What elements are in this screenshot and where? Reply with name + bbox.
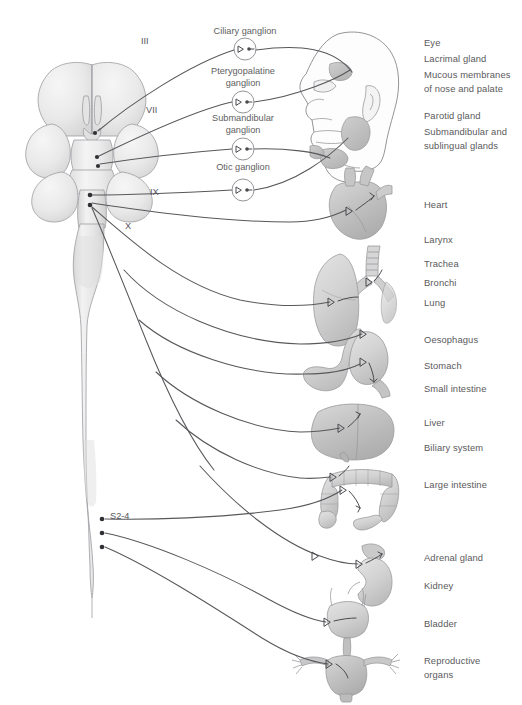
nerve-path-S2-4-colon	[105, 490, 342, 519]
label-submandibular-sublingual-line1: Submandibular and	[424, 126, 507, 137]
label-stomach: Stomach	[424, 360, 462, 371]
label-liver: Liver	[424, 417, 445, 428]
label-eye: Eye	[424, 37, 440, 48]
label-trachea: Trachea	[424, 258, 459, 269]
outflow-dot-III	[93, 131, 97, 135]
outflow-dot-S2	[100, 517, 105, 522]
sacral-outflow-dots	[100, 517, 105, 550]
outflow-dot-VII	[95, 155, 99, 159]
nerve-path-S2-4-reproductive	[105, 547, 328, 664]
nerve-numeral-VII: VII	[146, 105, 157, 115]
ciliary-ganglion-synapse	[238, 46, 243, 52]
label-mucous-membranes-line1: Mucous membranes	[424, 69, 511, 80]
ciliary-ganglion-label: Ciliary ganglion	[214, 26, 277, 36]
otic-ganglion-synapse	[236, 187, 241, 193]
label-adrenal-gland: Adrenal gland	[424, 552, 483, 563]
nerve-numeral-IX: IX	[150, 187, 159, 197]
label-bronchi: Bronchi	[424, 277, 457, 288]
head-profile-with-glands	[300, 32, 399, 182]
submandibular-ganglion[interactable]	[232, 138, 254, 160]
label-reproductive-organs-line2: organs	[424, 669, 453, 680]
liver	[311, 404, 394, 462]
sacral-outflow-label: S2-4	[110, 511, 129, 521]
nerve-path-X-trunk	[92, 208, 214, 470]
label-reproductive-organs-line1: Reproductive	[424, 655, 480, 666]
label-oesophagus: Oesophagus	[424, 334, 478, 345]
outflow-dot-X	[88, 203, 93, 208]
label-submandibular-sublingual-line2: sublingual glands	[424, 140, 498, 151]
nerve-numeral-III: III	[141, 36, 149, 46]
outflow-dot-S3	[100, 531, 105, 536]
diagram-canvas: Ciliary ganglion Pterygopalatine ganglio…	[0, 0, 522, 705]
outflow-dot-VII-b	[96, 164, 100, 168]
submandibular-ganglion-synapse	[236, 146, 241, 152]
label-biliary-system: Biliary system	[424, 442, 483, 453]
label-bladder: Bladder	[424, 618, 457, 629]
synapse-adrenal	[312, 552, 318, 560]
outflow-dot-IX	[88, 193, 93, 198]
label-parotid-gland: Parotid gland	[424, 110, 481, 121]
pterygopalatine-ganglion-label-line1: Pterygopalatine	[211, 66, 275, 76]
organ-label-column: Eye Lacrimal gland Mucous membranes of n…	[424, 37, 511, 680]
label-large-intestine: Large intestine	[424, 479, 487, 490]
nerve-numeral-X: X	[125, 221, 131, 231]
pterygopalatine-ganglion-label-line2: ganglion	[226, 78, 261, 88]
synapse-large-intestine-sacral	[340, 486, 360, 512]
pterygopalatine-ganglion-synapse	[236, 99, 241, 105]
label-larynx: Larynx	[424, 234, 453, 245]
label-mucous-membranes-line2: of nose and palate	[424, 83, 503, 94]
ciliary-ganglion[interactable]	[234, 38, 256, 60]
otic-ganglion[interactable]	[232, 179, 254, 201]
submandibular-ganglion-label-line2: ganglion	[226, 125, 261, 135]
submandibular-ganglion-label-line1: Submandibular	[212, 113, 274, 123]
label-small-intestine: Small intestine	[424, 383, 486, 394]
uterus-with-ovaries	[292, 654, 400, 702]
label-lacrimal-gland: Lacrimal gland	[424, 53, 486, 64]
large-intestine	[319, 469, 399, 530]
pterygopalatine-ganglion[interactable]	[232, 91, 254, 113]
otic-ganglion-label: Otic ganglion	[216, 162, 270, 172]
spinal-cord	[73, 224, 104, 618]
label-heart: Heart	[424, 199, 448, 210]
outflow-dot-S4	[100, 545, 105, 550]
label-kidney: Kidney	[424, 580, 453, 591]
label-lung: Lung	[424, 297, 445, 308]
parasympathetic-diagram: Ciliary ganglion Pterygopalatine ganglio…	[0, 0, 522, 705]
